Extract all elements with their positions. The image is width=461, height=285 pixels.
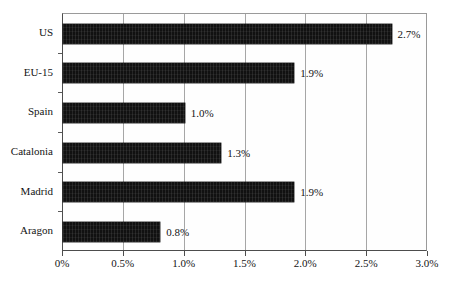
bar[interactable]: 1.9%	[63, 182, 294, 202]
x-axis-tick	[123, 251, 124, 256]
bar-value-label: 1.9%	[300, 68, 323, 79]
bar-value-label: 1.0%	[191, 108, 214, 119]
bar[interactable]: 1.3%	[63, 143, 221, 163]
bar-band: 0.8%	[63, 212, 426, 252]
y-axis-tick	[58, 172, 62, 173]
bar[interactable]: 2.7%	[63, 24, 392, 44]
bar-value-label: 1.3%	[227, 147, 250, 158]
bar-value-label: 2.7%	[398, 28, 421, 39]
bar-band: 1.9%	[63, 173, 426, 213]
plot-area: 2.7%1.9%1.0%1.3%1.9%0.8%	[62, 13, 427, 251]
category-label-spain: Spain	[0, 106, 53, 117]
x-axis-label: 0.5%	[111, 258, 134, 269]
x-axis-label: 1.0%	[172, 258, 195, 269]
category-label-madrid: Madrid	[0, 186, 53, 197]
x-axis-label: 0%	[55, 258, 70, 269]
bar-value-label: 1.9%	[300, 187, 323, 198]
bar-band: 1.9%	[63, 54, 426, 94]
x-axis-label: 1.5%	[233, 258, 256, 269]
y-axis-tick	[58, 211, 62, 212]
bar-band: 2.7%	[63, 14, 426, 54]
gridline	[427, 14, 428, 250]
y-axis-tick	[58, 53, 62, 54]
x-axis-label: 2.0%	[294, 258, 317, 269]
x-axis-label: 2.5%	[355, 258, 378, 269]
bar-band: 1.0%	[63, 93, 426, 133]
x-axis-tick	[305, 251, 306, 256]
bar[interactable]: 0.8%	[63, 222, 160, 242]
category-label-us: US	[0, 27, 53, 38]
x-axis-tick	[427, 251, 428, 256]
x-axis-tick	[62, 251, 63, 256]
category-label-eu-15: EU-15	[0, 67, 53, 78]
bar[interactable]: 1.9%	[63, 63, 294, 83]
x-axis-tick	[366, 251, 367, 256]
category-label-aragon: Aragon	[0, 225, 53, 236]
category-label-catalonia: Catalonia	[0, 146, 53, 157]
bar-value-label: 0.8%	[166, 227, 189, 238]
bar[interactable]: 1.0%	[63, 103, 185, 123]
bar-band: 1.3%	[63, 133, 426, 173]
x-axis-tick	[245, 251, 246, 256]
x-axis-tick	[184, 251, 185, 256]
bar-chart: 2.7%1.9%1.0%1.3%1.9%0.8% USEU-15SpainCat…	[0, 0, 461, 285]
y-axis-tick	[58, 92, 62, 93]
y-axis-tick	[58, 132, 62, 133]
x-axis-label: 3.0%	[416, 258, 439, 269]
